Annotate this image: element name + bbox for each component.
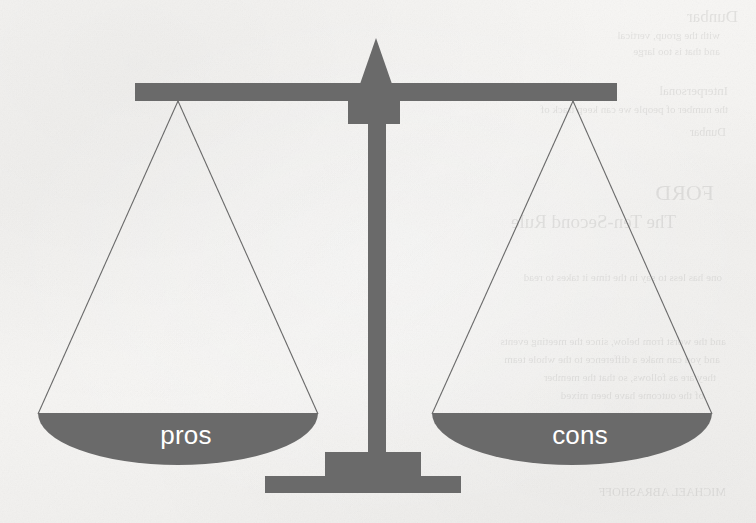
column-shaft [368, 100, 386, 453]
bleed-through-line: and that is too large [633, 46, 720, 57]
base-plate [265, 476, 461, 493]
suspension-lines-right [432, 101, 712, 414]
bleed-through-line: the number of people we can keep track o… [540, 104, 728, 115]
balance-scale-diagram: Dunbarwith the group, verticaland that i… [0, 0, 756, 523]
pan-label-pros: pros [128, 422, 244, 448]
bleed-through-line: of the outcome have been mixed [561, 390, 704, 401]
bleed-through-line: with the group, vertical [617, 30, 720, 41]
bleed-through-line: Interpersonal [659, 84, 728, 97]
bleed-through-line: MICHAEL ABRASHOFF [599, 486, 726, 498]
bleed-through-line: one has less to say in the time it takes… [524, 272, 722, 283]
bleed-through-line: Dunbar [690, 126, 726, 138]
bleed-through-line: Dunbar [687, 8, 738, 25]
pan-label-cons: cons [522, 422, 638, 448]
base-block [325, 452, 421, 477]
bleed-through-line: The Ten-Second Rule [511, 212, 676, 231]
suspension-lines-left [38, 101, 318, 414]
bleed-through-line: and you can make a difference to the who… [504, 354, 720, 365]
bleed-through-line: FORD [655, 182, 714, 204]
bleed-through-line: they are as follows, so that the member [544, 372, 716, 383]
bleed-through-line: and the worst from below, since the meet… [500, 336, 726, 347]
pointer-arrow-icon [360, 38, 392, 84]
scale-beam [135, 83, 617, 101]
